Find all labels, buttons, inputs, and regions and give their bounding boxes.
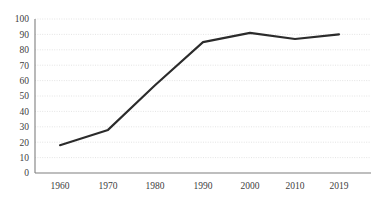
line-chart: 0102030405060708090100 19601970198019902… — [0, 0, 373, 205]
y-tick-label-30: 30 — [20, 122, 30, 132]
y-tick-label-60: 60 — [20, 76, 30, 86]
x-tick-label-1980: 1980 — [146, 181, 165, 191]
y-tick-label-80: 80 — [20, 45, 30, 55]
x-tick-label-group: 1960197019801990200020102019 — [51, 181, 349, 191]
x-tick-label-2010: 2010 — [286, 181, 305, 191]
y-tick-label-50: 50 — [20, 91, 30, 101]
x-tick-label-1990: 1990 — [194, 181, 213, 191]
x-tick-label-2000: 2000 — [241, 181, 260, 191]
y-tick-label-40: 40 — [20, 107, 30, 117]
y-tick-label-100: 100 — [15, 14, 30, 24]
chart-canvas: 0102030405060708090100 19601970198019902… — [0, 0, 373, 205]
x-tick-label-1960: 1960 — [51, 181, 70, 191]
y-tick-label-group: 0102030405060708090100 — [15, 14, 30, 178]
x-tick-label-2019: 2019 — [330, 181, 349, 191]
y-tick-label-10: 10 — [20, 153, 30, 163]
y-tick-label-90: 90 — [20, 30, 30, 40]
y-tick-label-70: 70 — [20, 61, 30, 71]
y-tick-label-20: 20 — [20, 138, 30, 148]
y-tick-label-0: 0 — [24, 168, 29, 178]
x-tick-label-1970: 1970 — [99, 181, 118, 191]
